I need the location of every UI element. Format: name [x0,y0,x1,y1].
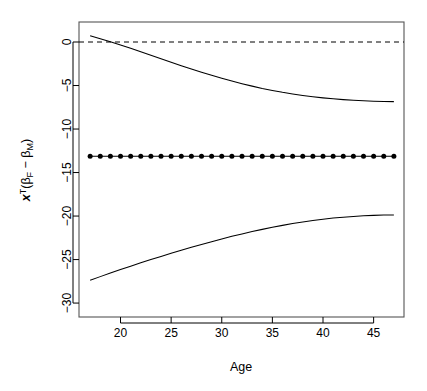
data-point [159,154,164,159]
y-axis: 0−5−10−15−20−25−30 [60,38,79,313]
data-point [209,154,214,159]
data-point [250,154,255,159]
y-tick-label: −30 [60,293,74,314]
data-point [310,154,315,159]
data-point [321,154,326,159]
data-point [138,154,143,159]
series-0 [90,36,394,102]
svg-text:xT(βF − βM): xT(βF − βM) [18,139,35,202]
data-point [169,154,174,159]
series-1 [88,154,397,159]
data-point [199,154,204,159]
data-point [219,154,224,159]
ylabel-open-paren-beta: (β [19,177,33,188]
data-point [128,154,133,159]
x-tick-label: 35 [266,326,280,340]
data-point [280,154,285,159]
series-path [90,215,394,280]
data-point [341,154,346,159]
series-2 [90,215,394,280]
data-point [300,154,305,159]
data-point [351,154,356,159]
y-tick-label: −5 [60,78,74,92]
data-point [148,154,153,159]
data-point [98,154,103,159]
data-point [118,154,123,159]
ylabel-minus-beta: − β [19,150,33,171]
data-point [88,154,93,159]
x-tick-label: 40 [316,326,330,340]
data-point [189,154,194,159]
y-tick-label: 0 [60,38,74,45]
data-point [108,154,113,159]
ylabel-close-paren: ) [19,139,33,143]
ylabel-subscript-m: M [25,143,35,151]
y-tick-label: −20 [60,206,74,227]
data-point [290,154,295,159]
y-axis-title: xT(βF − βM) [18,139,35,202]
x-tick-label: 30 [215,326,229,340]
y-tick-label: −10 [60,119,74,140]
chart-container: 0−5−10−15−20−25−30 202530354045 Age xT(β… [0,0,427,391]
series-path [90,36,394,102]
data-point [229,154,234,159]
data-point [391,154,396,159]
x-tick-label: 25 [164,326,178,340]
data-point [381,154,386,159]
x-axis: 202530354045 [114,317,381,340]
data-point [371,154,376,159]
x-axis-title: Age [230,360,252,374]
data-point [240,154,245,159]
y-tick-label: −15 [60,162,74,183]
data-point [179,154,184,159]
x-tick-label: 20 [114,326,128,340]
series-group [88,36,397,281]
plot-frame [79,22,404,317]
data-point [361,154,366,159]
scatter-line-plot: 0−5−10−15−20−25−30 202530354045 Age xT(β… [0,0,427,391]
data-point [260,154,265,159]
y-tick-label: −25 [60,249,74,270]
x-tick-label: 45 [367,326,381,340]
data-point [331,154,336,159]
data-point [270,154,275,159]
